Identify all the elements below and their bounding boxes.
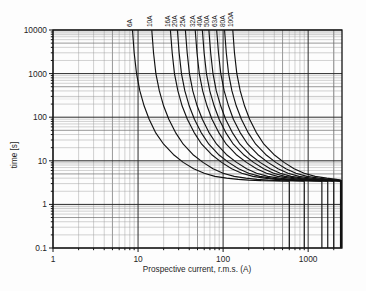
curve-label-16a: 16A [164, 15, 171, 27]
y-tick-label: 1000 [28, 69, 47, 79]
x-axis-title: Prospective current, r.m.s. (A) [143, 265, 252, 274]
x-tick-label: 100 [216, 254, 230, 264]
curve-label-63a: 63A [211, 15, 218, 27]
x-tick-label: 10 [133, 254, 143, 264]
x-tick-label: 1000 [299, 254, 318, 264]
curve-label-80a: 80A [219, 15, 226, 27]
curve-label-20a: 20A [171, 15, 178, 27]
curve-label-25a: 25A [179, 15, 186, 27]
curve-label-10a: 10A [146, 15, 153, 27]
y-tick-label: 100 [33, 112, 47, 122]
curve-label-100a: 100A [227, 11, 234, 27]
curve-label-32a: 32A [189, 15, 196, 27]
y-tick-label: 10000 [24, 25, 48, 35]
time-current-characteristic-chart: 1101001000 0.1110100100010000 6A10A16A20… [0, 0, 366, 291]
y-tick-label: 1 [42, 199, 47, 209]
y-tick-label: 0.1 [35, 243, 47, 253]
curve-label-50a: 50A [203, 15, 210, 27]
x-tick-label: 1 [51, 254, 56, 264]
y-axis-title: time [s] [10, 142, 19, 168]
chart-canvas: 1101001000 0.1110100100010000 6A10A16A20… [0, 0, 366, 291]
curve-label-6a: 6A [126, 18, 133, 27]
y-tick-label: 10 [38, 156, 48, 166]
